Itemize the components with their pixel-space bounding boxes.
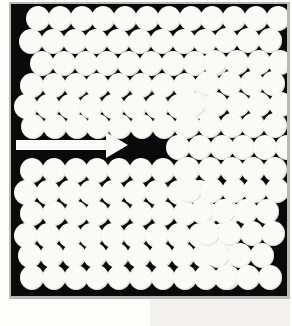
- disc: [130, 114, 154, 139]
- disc: [107, 265, 131, 290]
- disc: [85, 265, 109, 290]
- disc: [135, 6, 159, 31]
- disc: [255, 199, 279, 224]
- disc: [48, 6, 72, 31]
- disc: [179, 6, 203, 31]
- disc: [43, 114, 67, 139]
- disc: [261, 221, 285, 246]
- disc: [129, 265, 153, 290]
- disc: [190, 199, 214, 224]
- disc: [42, 265, 66, 290]
- disc: [65, 114, 89, 139]
- figure-root: [0, 0, 292, 326]
- disc: [214, 265, 238, 290]
- disc: [200, 6, 224, 31]
- disc-array-panel: [11, 4, 287, 296]
- disc: [151, 265, 175, 290]
- disc: [26, 6, 50, 31]
- direction-arrow-shaft: [16, 140, 108, 150]
- disc: [20, 265, 44, 290]
- disc: [173, 265, 197, 290]
- disc: [70, 6, 94, 31]
- disc: [113, 6, 137, 31]
- disc: [21, 114, 45, 139]
- disc: [64, 265, 88, 290]
- direction-arrow-head: [106, 132, 128, 158]
- disc: [258, 265, 282, 290]
- disc: [91, 6, 115, 31]
- disc: [157, 6, 181, 31]
- disc: [236, 265, 260, 290]
